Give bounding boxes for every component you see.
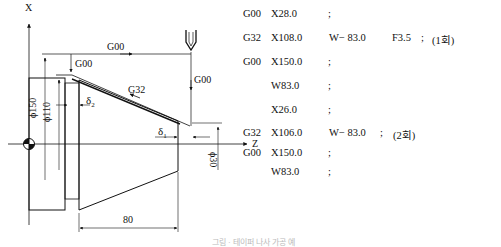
x-axis-label: X [25, 3, 32, 13]
dim-phi110: ϕ110 [42, 102, 52, 122]
g00-top-label: G00 [107, 42, 124, 52]
dim-phi30: ϕ30 [208, 152, 218, 167]
dim-phi150: ϕ150 [28, 98, 38, 118]
figure-caption: 그림 · 테이퍼 나사 가공 예 [212, 236, 295, 247]
nc-program: G00 X28.0 ; G32 X108.0 W− 83.0 F3.5 ; (1… [243, 0, 501, 200]
workpiece-neck [65, 83, 79, 199]
cutting-tool-icon [186, 30, 196, 50]
g32-label: G32 [128, 85, 145, 95]
g00-left-label: G00 [75, 59, 92, 69]
dim-delta1: δ1 [158, 126, 167, 141]
dim-80: 80 [123, 215, 133, 225]
g00-right-label: G00 [194, 75, 211, 85]
dim-delta2: δ2 [86, 95, 95, 110]
